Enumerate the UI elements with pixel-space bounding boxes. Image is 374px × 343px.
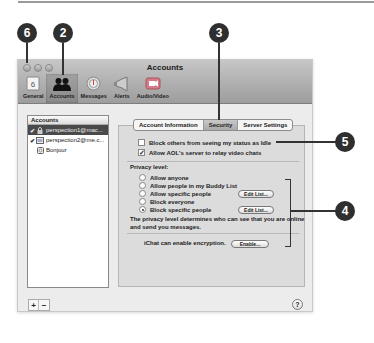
remove-account-button[interactable]: − xyxy=(39,300,49,310)
tab-security[interactable]: Security xyxy=(204,120,239,130)
callout-2-line xyxy=(62,43,64,75)
accounts-list[interactable]: Accounts ✔ perspection1@mac... ✔ perspec… xyxy=(27,115,109,288)
privacy-allow-anyone[interactable]: Allow anyone xyxy=(139,174,189,181)
accounts-list-header: Accounts xyxy=(28,116,108,125)
add-remove-buttons: + − xyxy=(28,299,50,311)
privacy-allow-specific[interactable]: Allow specific people xyxy=(139,190,211,197)
accounts-window: Accounts 6 General Accounts Messages xyxy=(17,59,313,312)
callout-4-bracket xyxy=(285,179,291,247)
callout-5-line xyxy=(276,141,336,143)
toolbar: 6 General Accounts Messages Al xyxy=(20,74,172,103)
svg-text:6: 6 xyxy=(31,80,36,89)
tab-bar: Account Information Security Server Sett… xyxy=(133,119,293,131)
tab-server-settings[interactable]: Server Settings xyxy=(238,120,292,130)
radio-button[interactable] xyxy=(139,190,146,197)
account-item[interactable]: ✔ perspection1@mac... xyxy=(28,125,108,135)
top-rule xyxy=(18,1,374,3)
alerts-icon xyxy=(113,75,131,92)
edit-list-allow-button[interactable]: Edit List... xyxy=(238,190,274,198)
separator xyxy=(127,233,299,234)
tab-account-information[interactable]: Account Information xyxy=(134,120,204,130)
toolbar-alerts[interactable]: Alerts xyxy=(110,74,134,103)
lock-icon xyxy=(36,127,44,134)
account-icon xyxy=(36,137,44,144)
callout-6-line xyxy=(26,43,28,63)
callout-6: 6 xyxy=(17,23,37,43)
encryption-label: iChat can enable encryption. xyxy=(144,240,226,246)
toolbar-general[interactable]: 6 General xyxy=(20,74,46,103)
block-idle-checkbox-row[interactable]: Block others from seeing my status as Id… xyxy=(138,139,271,146)
allow-aol-checkbox[interactable]: ✓ xyxy=(138,149,145,156)
callout-3: 3 xyxy=(209,23,229,43)
account-item[interactable]: ✔ perspection2@me.c... xyxy=(28,135,108,145)
privacy-block-specific[interactable]: Block specific people xyxy=(139,206,211,213)
radio-button[interactable] xyxy=(139,182,146,189)
callout-4: 4 xyxy=(335,201,355,221)
block-idle-checkbox[interactable] xyxy=(138,139,145,146)
privacy-block-everyone[interactable]: Block everyone xyxy=(139,198,194,205)
add-account-button[interactable]: + xyxy=(29,300,39,310)
radio-button[interactable] xyxy=(139,206,146,213)
allow-aol-checkbox-row[interactable]: ✓ Allow AOL's server to relay video chat… xyxy=(138,149,261,156)
callout-3-line xyxy=(218,43,220,120)
toolbar-audio-video[interactable]: Audio/Video xyxy=(134,74,172,103)
toolbar-messages[interactable]: Messages xyxy=(78,74,110,103)
audio-video-icon xyxy=(144,75,162,92)
account-item[interactable]: Bonjour xyxy=(28,145,108,155)
separator xyxy=(127,161,299,162)
enable-encryption-button[interactable]: Enable... xyxy=(231,240,269,248)
toolbar-accounts[interactable]: Accounts xyxy=(46,74,77,103)
accounts-icon xyxy=(53,75,71,92)
callout-2: 2 xyxy=(53,23,73,43)
messages-icon xyxy=(85,75,103,92)
privacy-allow-buddy-list[interactable]: Allow people in my Buddy List xyxy=(139,182,237,189)
privacy-description: The privacy level determines who can see… xyxy=(130,215,305,231)
help-button[interactable]: ? xyxy=(292,299,303,310)
general-icon: 6 xyxy=(24,75,42,92)
radio-button[interactable] xyxy=(139,198,146,205)
radio-button[interactable] xyxy=(139,174,146,181)
callout-4-line xyxy=(291,210,336,212)
privacy-level-label: Privacy level: xyxy=(130,164,168,170)
edit-list-block-button[interactable]: Edit List... xyxy=(238,206,274,214)
bonjour-icon xyxy=(36,147,44,154)
callout-5: 5 xyxy=(335,132,355,152)
